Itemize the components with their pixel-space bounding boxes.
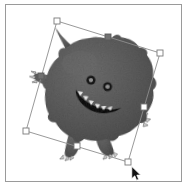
handle-left-center: [38, 73, 44, 79]
arrow-pointer-cursor: [131, 166, 143, 182]
monster-body: [39, 32, 161, 147]
handle-bottom-right: [125, 159, 131, 165]
handle-bottom-left: [23, 128, 29, 134]
artwork-and-selection-svg[interactable]: [0, 0, 188, 194]
arrow-pointer-icon: [131, 166, 143, 182]
handle-top-right: [157, 50, 163, 56]
handle-bottom-center: [74, 143, 80, 149]
artboard-layer[interactable]: [0, 0, 188, 194]
handle-top-center: [105, 34, 111, 40]
handle-right-center: [141, 104, 147, 110]
handle-top-left: [54, 18, 60, 24]
monster-character[interactable]: [25, 19, 162, 165]
application-window: [0, 0, 188, 194]
